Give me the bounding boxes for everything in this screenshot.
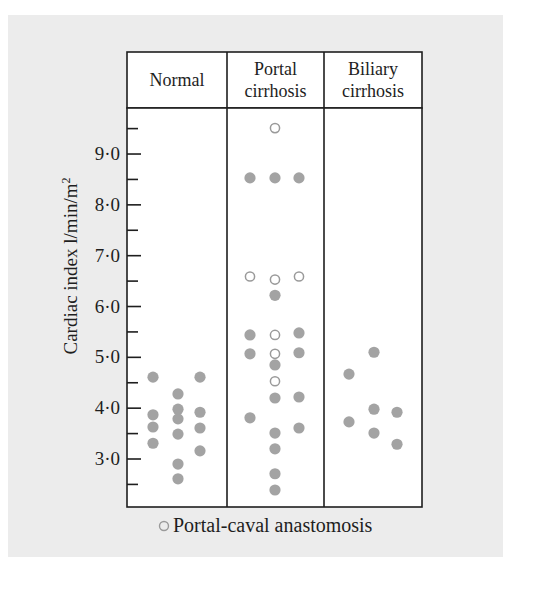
y-tick-label: 3·0 [95, 448, 120, 469]
filled-data-point [391, 407, 402, 418]
filled-data-point [293, 172, 304, 183]
legend-label: Portal-caval anastomosis [173, 514, 373, 536]
filled-data-point [172, 428, 183, 439]
filled-data-point [293, 422, 304, 433]
y-tick-label: 4·0 [95, 397, 120, 418]
scatter-chart: NormalPortalcirrhosisBiliarycirrhosis 3·… [0, 0, 533, 590]
open-data-point [270, 275, 279, 284]
filled-data-point [391, 439, 402, 450]
filled-data-point [172, 473, 183, 484]
category-header-1: Normal [150, 70, 205, 90]
open-circle-legend-icon [160, 522, 169, 531]
open-data-point [270, 330, 279, 339]
y-tick-label: 9·0 [95, 143, 120, 164]
filled-data-point [293, 391, 304, 402]
filled-data-point [147, 421, 158, 432]
y-tick-label: 8·0 [95, 194, 120, 215]
open-data-point [270, 349, 279, 358]
filled-data-point [269, 172, 280, 183]
open-data-point [270, 123, 279, 132]
filled-data-point [172, 404, 183, 415]
filled-data-point [269, 290, 280, 301]
filled-data-point [269, 484, 280, 495]
filled-data-point [343, 416, 354, 427]
y-axis-label: Cardiac index l/min/m2 [59, 178, 81, 355]
filled-data-point [147, 438, 158, 449]
filled-data-point [293, 347, 304, 358]
filled-data-point [343, 369, 354, 380]
filled-data-point [244, 172, 255, 183]
filled-data-point [172, 458, 183, 469]
filled-data-point [269, 443, 280, 454]
filled-data-point [244, 348, 255, 359]
open-data-point [245, 272, 254, 281]
filled-data-point [368, 427, 379, 438]
filled-data-point [172, 413, 183, 424]
filled-data-point [194, 407, 205, 418]
filled-data-point [147, 409, 158, 420]
open-data-point [270, 377, 279, 386]
filled-data-point [269, 359, 280, 370]
filled-data-point [368, 347, 379, 358]
filled-data-point [244, 329, 255, 340]
y-tick-label: 7·0 [95, 245, 120, 266]
filled-data-point [368, 404, 379, 415]
filled-data-point [194, 372, 205, 383]
filled-data-point [269, 392, 280, 403]
filled-data-point [244, 412, 255, 423]
filled-data-point [172, 388, 183, 399]
filled-data-point [147, 372, 158, 383]
y-tick-label: 5·0 [95, 346, 120, 367]
filled-data-point [194, 422, 205, 433]
filled-data-point [194, 445, 205, 456]
filled-data-point [269, 427, 280, 438]
open-data-point [294, 272, 303, 281]
filled-data-point [293, 327, 304, 338]
filled-data-point [269, 468, 280, 479]
y-tick-label: 6·0 [95, 296, 120, 317]
